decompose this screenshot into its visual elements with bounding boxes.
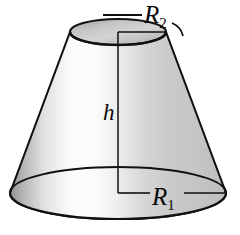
top-radius-label-base: R <box>144 1 159 28</box>
frustum-diagram <box>0 0 240 235</box>
top-radius-label-subscript: 2 <box>159 15 167 31</box>
top-radius-pointer <box>172 23 183 36</box>
height-label: h <box>103 101 115 124</box>
height-label-base: h <box>103 100 115 125</box>
bottom-radius-label-subscript: 1 <box>167 197 175 213</box>
bottom-radius-label: R1 <box>152 184 175 209</box>
frustum-figure: R2 R1 h <box>0 0 240 235</box>
top-radius-label: R2 <box>144 2 167 27</box>
bottom-radius-label-base: R <box>152 183 167 210</box>
